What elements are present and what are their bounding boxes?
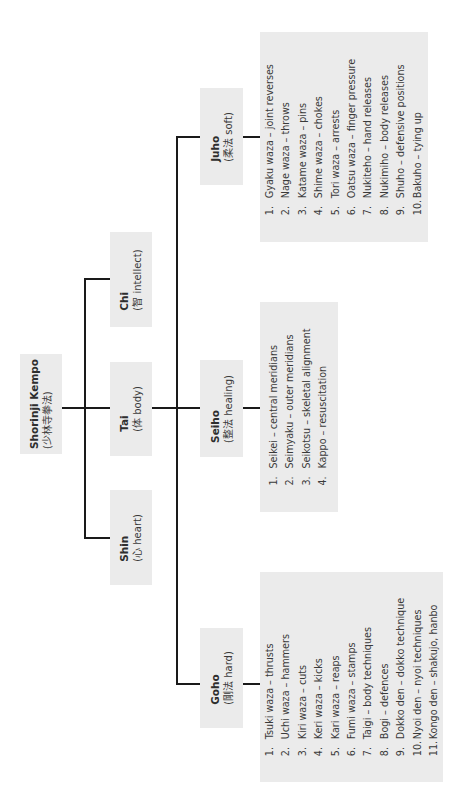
item-number: 1. [261, 739, 277, 756]
item-number: 5. [328, 198, 344, 215]
item-text: Shuho – defensive positions [393, 64, 409, 198]
item-text: Keri waza – kicks [310, 658, 326, 739]
list-item: 10.Bakuho – tying up [410, 59, 426, 215]
item-text: Tsuki waza – thrusts [261, 643, 277, 739]
connector-pillars-vertical [84, 278, 86, 539]
node-goho: Goho (剛法 hard) [200, 628, 243, 728]
item-text: Kari waza – reaps [327, 655, 343, 739]
item-number: 3. [294, 739, 310, 756]
list-item: 3.Kiri waza – cuts [294, 598, 310, 756]
node-seiho: Seiho (整法 healing) [200, 360, 243, 457]
item-number: 4. [311, 198, 327, 215]
list-item: 2.Nage waza – throws [278, 59, 294, 215]
item-text: Kiri waza – cuts [294, 665, 310, 739]
list-item: 9.Shuho – defensive positions [393, 59, 409, 215]
connector-seiho-to-list [243, 407, 260, 409]
item-text: Bakuho – tying up [410, 112, 426, 198]
item-number: 5. [327, 739, 343, 756]
node-shorinji-kempo: Shorinji Kempo (少林寺拳法) [20, 354, 62, 454]
node-subtitle: (柔法 soft) [222, 112, 235, 162]
node-title: Shin [118, 514, 131, 562]
item-number: 10. [409, 739, 425, 756]
list-goho-techniques: 1.Tsuki waza – thrusts2.Uchi waza – hamm… [260, 572, 443, 782]
connector-to-goho [176, 683, 200, 685]
connector-to-shin [84, 537, 110, 539]
item-text: Nukiteho – hand releases [360, 77, 376, 198]
list-item: 5.Tori waza – arrests [328, 59, 344, 215]
item-text: Fumi waza – stamps [343, 642, 359, 739]
item-number: 3. [299, 469, 315, 486]
list-item: 6.Oatsu waza – finger pressure [344, 59, 360, 215]
node-subtitle: (体 body) [131, 386, 144, 432]
list-item: 6.Fumi waza – stamps [343, 598, 359, 756]
technique-list: 1.Seikei – central meridians2.Seimyaku –… [266, 329, 332, 486]
list-item: 11.Kongo den – shakujo, hanbo [425, 598, 441, 756]
item-text: Dokko den – dokko technique [393, 598, 409, 739]
node-tai: Tai (体 body) [110, 362, 152, 456]
list-item: 2.Seimyaku – outer meridians [283, 329, 299, 486]
node-title: Chi [118, 249, 131, 310]
item-text: Nyoi den – nyoi techniques [409, 610, 425, 740]
item-number: 4. [310, 739, 326, 756]
list-item: 5.Kari waza – reaps [327, 598, 343, 756]
item-number: 6. [344, 198, 360, 215]
connector-to-juho [176, 136, 200, 138]
item-text: Nage waza – throws [278, 102, 294, 198]
item-number: 7. [360, 739, 376, 756]
item-number: 3. [295, 198, 311, 215]
node-title: Shorinji Kempo [28, 359, 41, 449]
list-item: 7.Nukiteho – hand releases [360, 59, 376, 215]
item-number: 8. [376, 739, 392, 756]
list-seiho-techniques: 1.Seikei – central meridians2.Seimyaku –… [260, 302, 338, 512]
list-item: 4.Shime waza – chokes [311, 59, 327, 215]
item-text: Taigi – body techniques [360, 627, 376, 739]
node-subtitle: (心 heart) [131, 514, 144, 562]
technique-list: 1.Gyaku waza – joint reverses2.Nage waza… [262, 59, 426, 215]
node-title: Tai [118, 386, 131, 432]
item-text: Bogi – defences [376, 664, 392, 740]
list-item: 9.Dokko den – dokko technique [393, 598, 409, 756]
item-text: Seikei – central meridians [266, 345, 282, 468]
item-number: 9. [393, 198, 409, 215]
item-text: Tori waza – arrests [328, 110, 344, 198]
list-item: 1.Tsuki waza – thrusts [261, 598, 277, 756]
item-number: 2. [278, 198, 294, 215]
item-number: 4. [315, 469, 331, 486]
node-subtitle: (剛法 hard) [222, 651, 235, 705]
item-text: Kongo den – shakujo, hanbo [425, 605, 441, 740]
item-text: Nukimiho – body releases [377, 75, 393, 198]
item-text: Uchi waza – hammers [278, 634, 294, 739]
list-item: 2.Uchi waza – hammers [278, 598, 294, 756]
item-text: Seimyaku – outer meridians [283, 335, 299, 469]
node-title: Juho [209, 112, 222, 162]
item-number: 2. [278, 739, 294, 756]
list-item: 4.Keri waza – kicks [310, 598, 326, 756]
list-item: 10.Nyoi den – nyoi techniques [409, 598, 425, 756]
item-text: Oatsu waza – finger pressure [344, 59, 360, 198]
list-item: 7.Taigi – body techniques [360, 598, 376, 756]
node-subtitle: (少林寺拳法) [41, 359, 54, 449]
item-text: Shime waza – chokes [311, 96, 327, 198]
node-subtitle: (整法 healing) [222, 375, 235, 443]
item-number: 9. [393, 739, 409, 756]
item-number: 10. [410, 198, 426, 215]
connector-goho-to-list [243, 683, 260, 685]
item-text: Katame waza – pins [295, 103, 311, 198]
connector-root-to-pillars [62, 407, 110, 409]
item-text: Gyaku waza – joint reverses [262, 64, 278, 198]
item-number: 1. [266, 469, 282, 486]
node-shin: Shin (心 heart) [110, 490, 152, 585]
list-juho-techniques: 1.Gyaku waza – joint reverses2.Nage waza… [260, 32, 428, 242]
list-item: 3.Seikotsu – skeletal alignment [299, 329, 315, 486]
list-item: 8.Nukimiho – body releases [377, 59, 393, 215]
node-chi: Chi (智 intellect) [110, 232, 152, 327]
item-text: Kappo – resuscitation [315, 366, 331, 469]
technique-list: 1.Tsuki waza – thrusts2.Uchi waza – hamm… [261, 598, 441, 756]
item-text: Seikotsu – skeletal alignment [299, 329, 315, 469]
list-item: 4.Kappo – resuscitation [315, 329, 331, 486]
item-number: 11. [425, 739, 441, 756]
node-title: Goho [209, 651, 222, 705]
node-title: Seiho [209, 375, 222, 443]
item-number: 8. [377, 198, 393, 215]
item-number: 7. [360, 198, 376, 215]
